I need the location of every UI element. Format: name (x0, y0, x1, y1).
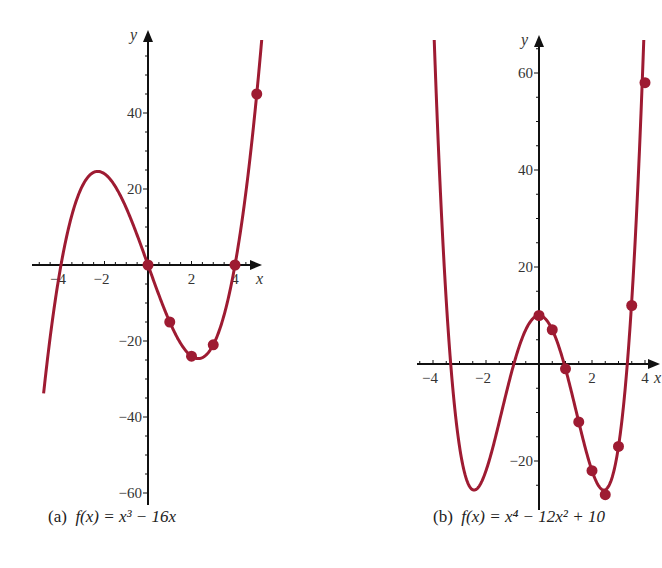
data-point-marker (143, 260, 154, 271)
caption-b-label: (b) (433, 507, 453, 526)
caption-b-formula: f(x) = x⁴ − 12x² + 10 (461, 507, 605, 526)
x-tick-label: −2 (94, 271, 110, 287)
data-point-marker (208, 339, 219, 350)
data-point-marker (560, 363, 571, 374)
x-tick-label: 2 (588, 370, 596, 386)
x-axis-label: x (255, 270, 263, 287)
x-axis-arrow-icon (250, 260, 262, 270)
data-point-marker (640, 77, 651, 88)
x-tick-label: 4 (641, 370, 649, 386)
plot-b-quartic: −4−224604020−20xy (417, 0, 661, 510)
data-point-marker (186, 351, 197, 362)
y-tick-label: 40 (127, 105, 142, 121)
figure: −4−2244020−20−40−60xy −4−224604020−20xy … (0, 0, 662, 568)
y-tick-label: −40 (119, 409, 142, 425)
y-tick-label: 20 (127, 181, 142, 197)
x-tick-label: −4 (422, 370, 438, 386)
x-axis-label: x (653, 369, 661, 386)
data-point-marker (164, 317, 175, 328)
y-tick-label: −60 (119, 485, 142, 501)
caption-a-formula: f(x) = x³ − 16x (75, 507, 176, 526)
data-point-marker (613, 441, 624, 452)
plot-a-cubic: −4−2244020−20−40−60xy (32, 22, 263, 505)
caption-a: (a) f(x) = x³ − 16x (48, 507, 176, 527)
x-axis-arrow-icon (648, 359, 660, 369)
data-point-marker (547, 324, 558, 335)
y-axis-label: y (128, 26, 138, 44)
y-axis-arrow-icon (534, 35, 544, 47)
data-point-marker (600, 489, 611, 500)
data-point-marker (587, 465, 598, 476)
y-axis-label: y (519, 31, 529, 49)
caption-b: (b) f(x) = x⁴ − 12x² + 10 (433, 507, 605, 527)
data-point-marker (230, 260, 241, 271)
plots-canvas: −4−2244020−20−40−60xy −4−224604020−20xy (0, 0, 662, 568)
data-point-marker (251, 89, 262, 100)
y-tick-label: −20 (510, 453, 533, 469)
y-tick-label: −20 (119, 333, 142, 349)
x-tick-label: 2 (188, 271, 196, 287)
caption-a-label: (a) (48, 507, 67, 526)
x-tick-label: −2 (475, 370, 491, 386)
y-tick-label: 60 (518, 65, 533, 81)
y-tick-label: 40 (518, 162, 533, 178)
function-curve (44, 22, 264, 394)
data-point-marker (626, 300, 637, 311)
y-axis-arrow-icon (143, 30, 153, 42)
data-point-marker (573, 416, 584, 427)
data-point-marker (534, 310, 545, 321)
y-tick-label: 20 (518, 259, 533, 275)
